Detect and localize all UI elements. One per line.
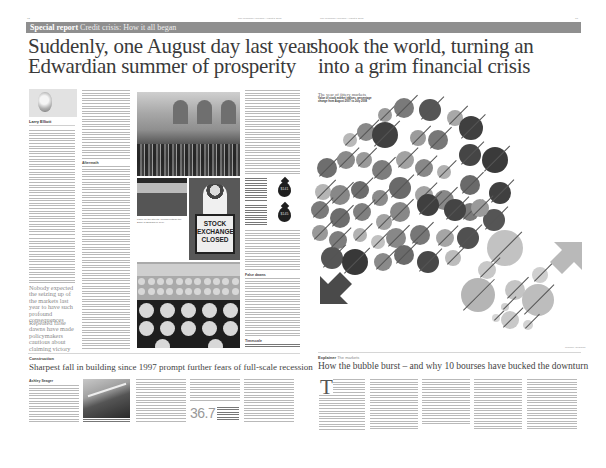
oil-drop-icon: $145 [278,207,291,222]
photo-bank-crowd [137,92,240,176]
headline-right-2: into a grim financial crisis [318,56,530,76]
construction-author: Ashley Seager [29,379,53,383]
masthead-right: The Guardian | Tuesday August 5 2008 [320,17,363,20]
main-photo-caption: Panic on the streets: crowds outside the… [137,218,187,224]
construction-col-3 [136,379,186,423]
page-number-left: 32 [27,17,30,20]
headline-left-2: Edwardian summer of prosperity [28,56,296,76]
subhead-timescale: Timescale [245,339,262,343]
lead-article-col-2a [82,90,130,160]
explainer-col-4 [474,379,522,429]
author-photo [29,89,77,117]
subhead-aftermath: Aftermath [82,161,99,165]
construction-col-5 [244,379,294,423]
chart-credit: Graphic: Guardian [565,346,585,349]
band-topic: Credit crisis: How it all began [80,23,176,32]
explainer-headline: How the bubble burst – and why 10 bourse… [318,361,588,371]
stat-text [217,407,239,421]
author-name: Larry Elliott [29,119,51,124]
divider [318,352,581,353]
construction-col-1 [29,385,79,423]
lead-article-col-1b [29,238,75,284]
oil-fact-1 [245,178,267,201]
oil-fact-2 [245,205,267,227]
lead-article-col-4b [245,230,300,270]
author-role-text [29,125,75,128]
photo-share-certificates [137,262,240,348]
construction-headline: Sharpest fall in building since 1997 pro… [29,362,313,372]
construction-col-4a [190,379,240,401]
band-kicker: Special report [30,23,78,32]
lead-article-col-4c [245,278,300,336]
construction-section-label: Construction [29,356,54,361]
lead-article-col-4a [245,90,300,175]
oil-drop-icon: $141 [278,182,291,197]
pull-quote-1: Nobody expected the seizing up of the ma… [29,285,77,323]
headline-right-1: shook the world, turning an [310,36,533,56]
photo-northern-rock-queue [137,178,187,216]
chart-subtitle: Value of stock market indices, percentag… [318,97,373,103]
page-number-right: 33 [575,17,578,20]
pull-quote-2: Repeated false dawns have made policymak… [29,320,77,352]
lead-article-col-2b [82,166,130,349]
subhead-false-dawns: False dawns [245,273,266,277]
stat-number: 36.7 [190,405,215,421]
headline-left-1: Suddenly, one August day last year [28,36,313,56]
section-band: Special report Credit crisis: How it all… [26,22,581,33]
masthead-left: The Guardian | Tuesday August 5 2008 [238,17,281,20]
drop-cap: T [320,377,333,397]
construction-photo-caption [83,419,130,423]
explainer-col-2 [370,379,418,431]
explainer-col-1b [319,395,365,431]
photo-construction-site [83,379,130,418]
stock-exchange-sign: STOCK EXCHANGE CLOSED [195,214,235,254]
arrow-up-right-icon [548,240,584,276]
timescale-text [245,344,300,349]
photo-stock-exchange-closed: STOCK EXCHANGE CLOSED [189,178,240,260]
explainer-col-1a [333,379,365,393]
explainer-col-5 [527,379,577,431]
explainer-section-label: Explainer The markets [318,355,359,360]
lead-article-col-1 [29,130,75,235]
divider [28,353,300,354]
arrow-down-left-icon [318,270,354,306]
explainer-col-3 [422,379,470,425]
